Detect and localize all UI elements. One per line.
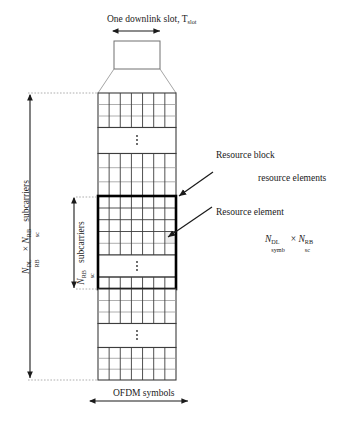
inner-axis-text: subcarriers <box>76 221 86 263</box>
outer-n2: N <box>21 237 31 243</box>
formula-n2-sup: RB <box>305 238 313 245</box>
figure-title: One downlink slot, Tslot <box>107 14 197 25</box>
outer-n1-sub: RB <box>33 259 40 267</box>
grid-gap-bottom <box>98 324 176 348</box>
inner-axis-label: NRBsc subcarriers <box>76 203 86 303</box>
grid-segment-top-a <box>98 93 176 128</box>
outer-n1: N <box>21 268 31 274</box>
resource-elements-label: resource elements <box>258 173 326 183</box>
outer-n2-sub: sc <box>33 232 40 237</box>
outer-n2-sup: RB <box>25 229 32 237</box>
resource-grid-svg <box>0 0 362 429</box>
inner-n1-sup: RB <box>80 270 87 278</box>
resource-element-label: Resource element <box>216 207 284 217</box>
inner-n1: N <box>76 278 86 284</box>
resource-block-leader <box>179 172 213 196</box>
grid-segment-bottom-a <box>98 289 176 324</box>
grid-gap-top <box>98 128 176 154</box>
grid-segment-bottom-b <box>98 348 176 381</box>
slot-box <box>114 41 160 69</box>
trapezoid-connector <box>98 69 176 93</box>
outer-n1-sup: DL <box>25 259 32 267</box>
ofdm-symbols-label: OFDM symbols <box>113 388 175 398</box>
formula-times: × <box>291 234 296 244</box>
resource-grid <box>98 93 176 380</box>
formula-n1-sub: symb <box>271 246 284 253</box>
outer-axis-label: NDLRB × NRBsc subcarriers <box>21 162 31 292</box>
figure-title-subscript: slot <box>188 18 197 25</box>
resource-element-count-formula: NDLsymb × NRBsc <box>265 234 305 244</box>
figure-title-text: One downlink slot, T <box>107 14 188 24</box>
resource-block <box>98 196 176 289</box>
resource-grid-figure: One downlink slot, Tslot Resource block … <box>0 0 362 429</box>
outer-times: × <box>21 246 31 251</box>
formula-n2-sub: sc <box>305 246 310 253</box>
resource-block-label: Resource block <box>216 150 275 160</box>
grid-segment-top-b <box>98 154 176 197</box>
inner-n1-sub: sc <box>88 273 95 278</box>
resource-element-leader <box>168 207 212 237</box>
formula-n1-sup: DL <box>271 238 279 245</box>
outer-axis-text: subcarriers <box>21 180 31 222</box>
